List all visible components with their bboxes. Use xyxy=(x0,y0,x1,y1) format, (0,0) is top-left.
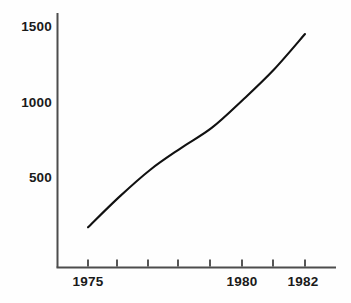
line-chart: 1500 1000 500 1975 1980 1982 xyxy=(0,0,351,303)
x-tick-label-1982: 1982 xyxy=(277,275,329,289)
x-axis-ticks xyxy=(88,260,305,267)
y-tick-label-1500: 1500 xyxy=(8,20,52,34)
x-tick-label-1975: 1975 xyxy=(62,275,114,289)
y-tick-label-1000: 1000 xyxy=(8,96,52,110)
y-tick-label-500: 500 xyxy=(8,171,52,185)
data-series-line xyxy=(88,34,305,227)
chart-plot-area xyxy=(0,0,351,303)
x-tick-label-1980: 1980 xyxy=(216,275,268,289)
